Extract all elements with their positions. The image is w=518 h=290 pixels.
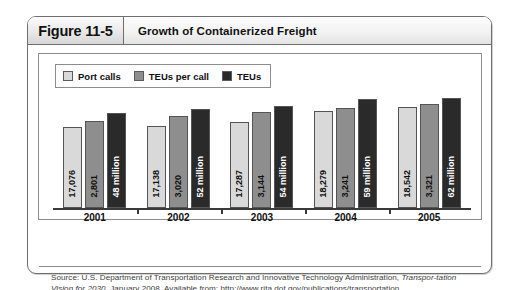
bar-value-label: 3,020 [174, 175, 183, 198]
bar-2002-series-2: 52 million [191, 109, 210, 208]
x-axis-tick [389, 208, 391, 214]
figure-title: Growth of Containerized Freight [124, 17, 491, 44]
source-divider [39, 266, 481, 267]
bar-2005-series-1: 3,321 [420, 104, 439, 209]
bar-group-2004: 18,2793,24159 million [304, 98, 388, 208]
bar-value-label: 59 million [363, 156, 372, 198]
x-axis-tick [221, 208, 223, 214]
bar-value-label: 2,801 [90, 175, 99, 198]
x-axis-labels: 20012002200320042005 [53, 212, 471, 223]
bar-group-2001: 17,0762,80148 million [53, 98, 137, 208]
bar-2003-series-1: 3,144 [252, 112, 271, 208]
legend-swatch-icon [222, 71, 232, 81]
x-axis-label-2004: 2004 [304, 212, 388, 223]
bar-value-label: 17,138 [152, 170, 161, 198]
bar-value-label: 3,144 [257, 175, 266, 198]
bar-value-label: 3,241 [341, 175, 350, 198]
x-axis-tick [137, 208, 139, 214]
bar-value-label: 3,321 [425, 175, 434, 198]
legend-label: Port calls [78, 71, 121, 82]
bar-value-label: 17,076 [68, 170, 77, 198]
legend-item-port-calls: Port calls [63, 71, 121, 82]
bar-value-label: 52 million [196, 156, 205, 198]
bar-group-2002: 17,1383,02052 million [137, 98, 221, 208]
bar-2004-series-1: 3,241 [336, 108, 355, 208]
figure-number-label: Figure 11-5 [28, 17, 124, 44]
bar-2002-series-1: 3,020 [169, 116, 188, 208]
bar-2003-series-2: 54 million [274, 106, 293, 208]
bar-2005-series-2: 62 million [442, 98, 461, 208]
bar-2002-series-0: 17,138 [147, 126, 166, 209]
chart-legend: Port calls TEUs per call TEUs [55, 64, 271, 88]
bar-value-label: 17,287 [235, 170, 244, 198]
x-axis-label-2005: 2005 [387, 212, 471, 223]
bar-value-label: 18,542 [403, 170, 412, 198]
bar-group-2005: 18,5423,32162 million [387, 98, 471, 208]
x-axis-label-2001: 2001 [53, 212, 137, 223]
legend-swatch-icon [134, 71, 144, 81]
bar-value-label: 54 million [279, 156, 288, 198]
bar-2004-series-2: 59 million [358, 99, 377, 208]
x-axis-tick [305, 208, 307, 214]
source-note: Source: U.S. Department of Transportatio… [51, 272, 469, 290]
legend-label: TEUs per call [149, 71, 209, 82]
bar-2005-series-0: 18,542 [398, 107, 417, 208]
legend-item-teus-per-call: TEUs per call [134, 71, 209, 82]
figure-container: Figure 11-5 Growth of Containerized Frei… [27, 16, 492, 274]
bar-group-2003: 17,2873,14454 million [220, 98, 304, 208]
x-axis-label-2003: 2003 [220, 212, 304, 223]
bar-value-label: 18,279 [319, 170, 328, 198]
bar-2001-series-2: 48 million [107, 113, 126, 208]
x-axis-line [53, 208, 471, 210]
chart-panel: Port calls TEUs per call TEUs 17,0762,80… [38, 53, 482, 220]
legend-swatch-icon [63, 71, 73, 81]
bar-2003-series-0: 17,287 [230, 122, 249, 208]
bar-value-label: 48 million [112, 156, 121, 198]
legend-item-teus: TEUs [222, 71, 261, 82]
bar-value-label: 62 million [447, 156, 456, 198]
legend-label: TEUs [237, 71, 261, 82]
bar-2001-series-0: 17,076 [63, 127, 82, 208]
bar-2001-series-1: 2,801 [85, 121, 104, 208]
bar-2004-series-0: 18,279 [314, 111, 333, 208]
chart-plot-area: 17,0762,80148 million17,1383,02052 milli… [53, 98, 471, 208]
figure-header: Figure 11-5 Growth of Containerized Frei… [28, 17, 491, 45]
x-axis-label-2002: 2002 [137, 212, 221, 223]
